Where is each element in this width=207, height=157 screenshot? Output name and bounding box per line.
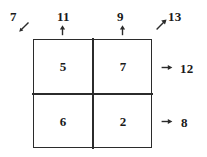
diagonal-top-right-sum: 13 [168,10,181,23]
column-1-sum: 9 [117,10,124,23]
cell-value: 6 [60,114,67,130]
arrow-northeast-icon [155,18,168,31]
arrow-right-icon [161,63,173,72]
cell-value: 2 [120,114,127,130]
diagonal-top-left-sum: 7 [10,10,17,23]
grid-cell-r1c0: 6 [34,95,92,148]
diagram-canvas: 7 11 9 13 [0,0,207,157]
row-0-sum: 12 [180,62,193,75]
cell-value: 5 [60,59,67,75]
cell-value: 7 [120,59,127,75]
arrow-up-icon [58,25,67,36]
column-0-sum: 11 [57,10,70,23]
arrow-right-icon [161,117,173,126]
row-1-sum: 8 [181,116,188,129]
arrow-southwest-icon [18,21,30,33]
grid-box: 5 7 6 2 [33,39,152,148]
grid-cell-r1c1: 2 [94,95,152,148]
grid-cell-r0c0: 5 [34,40,92,93]
arrow-up-icon [118,25,127,36]
grid-cell-r0c1: 7 [94,40,152,93]
